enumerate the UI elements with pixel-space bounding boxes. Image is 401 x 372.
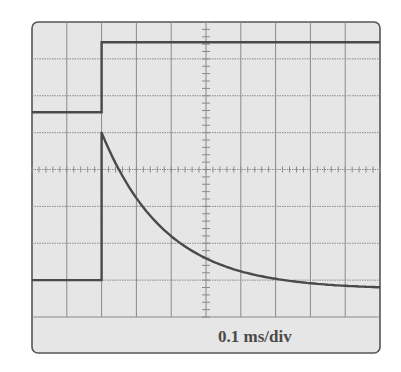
oscilloscope-screen [0,0,401,372]
timebase-label: 0.1 ms/div [218,327,292,347]
